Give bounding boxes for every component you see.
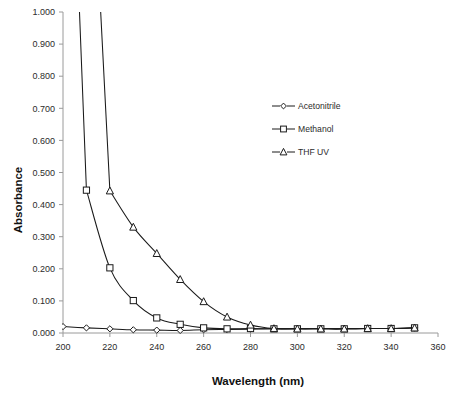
data-point-marker (107, 326, 113, 332)
legend-marker-diamond (281, 103, 287, 109)
legend-label: Acetonitrile (298, 101, 341, 111)
x-axis-title: Wavelength (nm) (212, 375, 304, 387)
series-line (99, 0, 415, 329)
y-axis-title: Absorbance (12, 167, 24, 233)
absorbance-wavelength-chart: 0.0000.1000.2000.3000.4000.5000.6000.700… (0, 0, 458, 403)
chart-canvas: 0.0000.1000.2000.3000.4000.5000.6000.700… (0, 0, 458, 403)
y-tick-label: 0.500 (32, 168, 55, 178)
x-tick-label: 300 (290, 342, 305, 352)
x-tick-label: 280 (243, 342, 258, 352)
data-point-marker (106, 187, 113, 194)
legend-item-methanol: Methanol (272, 124, 333, 134)
legend-label: Methanol (298, 124, 333, 134)
data-point-marker (60, 323, 66, 329)
y-tick-label: 0.800 (32, 71, 55, 81)
legend-item-acetonitrile: Acetonitrile (272, 101, 341, 111)
x-tick-label: 340 (384, 342, 399, 352)
x-tick-label: 320 (337, 342, 352, 352)
legend-item-thf-uv: THF UV (272, 147, 329, 157)
data-point-marker (83, 187, 89, 193)
data-point-marker (154, 327, 160, 333)
data-point-marker (107, 265, 113, 271)
x-tick-label: 360 (430, 342, 445, 352)
series-methanol (75, 0, 417, 332)
data-point-marker (130, 297, 136, 303)
y-tick-label: 0.200 (32, 264, 55, 274)
series-thf-uv (99, 0, 419, 332)
data-point-marker (224, 326, 230, 332)
data-point-marker (177, 321, 183, 327)
y-tick-label: 0.300 (32, 232, 55, 242)
legend-marker-square (281, 126, 287, 132)
legend-marker-triangle (280, 148, 287, 155)
x-tick-label: 260 (196, 342, 211, 352)
y-tick-label: 0.700 (32, 104, 55, 114)
data-point-marker (201, 325, 207, 331)
data-point-marker (83, 325, 89, 331)
y-tick-label: 1.000 (32, 7, 55, 17)
data-point-marker (130, 327, 136, 333)
chart-legend: AcetonitrileMethanolTHF UV (272, 101, 341, 157)
x-axis-group: 200220240260280300320340360 (55, 333, 445, 352)
y-axis-group: 0.0000.1000.2000.3000.4000.5000.6000.700… (32, 7, 63, 338)
x-tick-label: 220 (102, 342, 117, 352)
x-tick-label: 200 (55, 342, 70, 352)
series-line (75, 0, 414, 329)
y-tick-label: 0.600 (32, 136, 55, 146)
y-tick-label: 0.400 (32, 200, 55, 210)
y-tick-label: 0.000 (32, 328, 55, 338)
x-axis-ticks: 200220240260280300320340360 (55, 333, 445, 352)
y-tick-label: 0.100 (32, 296, 55, 306)
y-tick-label: 0.900 (32, 39, 55, 49)
data-point-marker (223, 313, 230, 320)
y-axis-ticks: 0.0000.1000.2000.3000.4000.5000.6000.700… (32, 7, 63, 338)
data-point-marker (154, 315, 160, 321)
legend-label: THF UV (298, 147, 329, 157)
data-series-group (60, 0, 418, 334)
x-tick-label: 240 (149, 342, 164, 352)
